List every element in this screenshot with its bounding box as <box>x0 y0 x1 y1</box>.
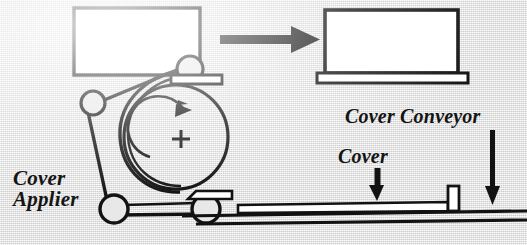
applier-belt <box>88 67 206 215</box>
guide-plate <box>171 75 222 84</box>
figure-cover-applier-diagram: Cover Applier Cover Conveyor Cover <box>0 0 527 245</box>
label-cover-applier-line1: Cover <box>13 166 65 190</box>
idler-roller-left <box>81 91 105 115</box>
outfeed-platform <box>317 73 468 83</box>
label-cover-conveyor: Cover Conveyor <box>345 106 481 126</box>
drum-center-mark <box>172 130 190 148</box>
book-block-outfeed <box>325 10 458 73</box>
conveyor-lug <box>448 186 459 211</box>
label-cover: Cover <box>338 146 388 166</box>
label-cover-applier-line2: Applier <box>13 189 79 210</box>
transfer-arrow-icon <box>220 26 320 53</box>
cover-conveyor-pointer-arrow-icon <box>485 130 500 205</box>
cover-pointer-arrow-icon <box>369 168 384 201</box>
cover-sheet <box>238 202 448 213</box>
idler-roller-bottom-left <box>100 195 128 223</box>
label-cover-applier: Cover Applier <box>13 168 79 211</box>
transfer-chute <box>188 191 232 199</box>
